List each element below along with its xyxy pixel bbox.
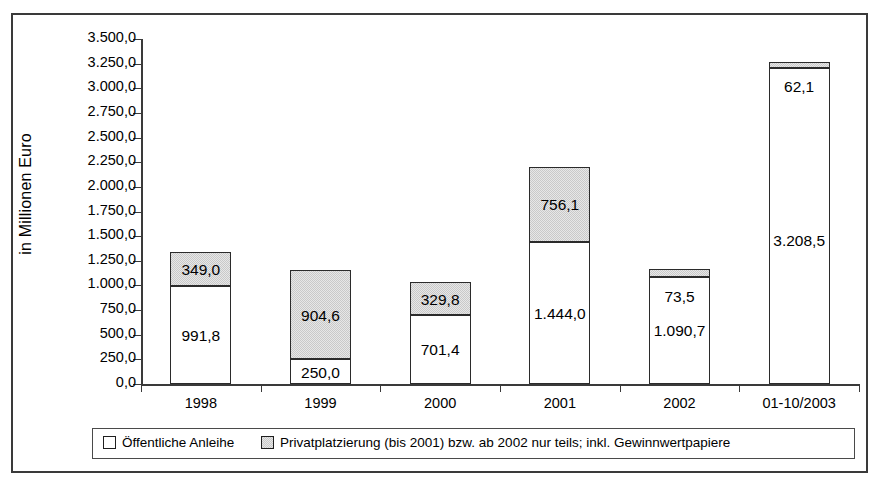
bar-2002[interactable]: 1.090,773,5 — [649, 269, 710, 384]
bar-2000[interactable]: 701,4329,8 — [410, 282, 471, 384]
y-axis-tick-label: 3.000,0 — [88, 78, 136, 94]
bar-segment-privatplatzierung[interactable] — [769, 62, 830, 68]
y-axis-tick-label: 3.500,0 — [88, 29, 136, 45]
y-axis-tick-label: 750,0 — [100, 300, 136, 316]
bar-segment-privatplatzierung[interactable] — [649, 269, 710, 276]
y-axis-tick-label: 2.750,0 — [88, 103, 136, 119]
chart-legend: Öffentliche Anleihe Privatplatzierung (b… — [92, 428, 855, 459]
bar-value-label-privatplatzierung: 349,0 — [170, 261, 231, 279]
plot-area: 0,0250,0500,0750,01.000,01.250,01.500,01… — [141, 39, 868, 385]
y-axis-tick-label: 0,0 — [116, 374, 136, 390]
bar-value-label-privatplatzierung: 73,5 — [649, 288, 710, 306]
x-axis-tick-mark — [620, 384, 621, 392]
x-axis-category-label: 2002 — [620, 395, 740, 411]
x-axis-tick-mark — [380, 384, 381, 392]
bar-01-10/2003[interactable]: 3.208,562,1 — [769, 62, 830, 384]
bar-value-label-oeffentliche-anleihe: 250,0 — [290, 364, 351, 382]
bar-segment-oeffentliche-anleihe[interactable] — [769, 68, 830, 384]
x-axis-category-label: 1999 — [261, 395, 381, 411]
y-axis-tick-label: 2.250,0 — [88, 152, 136, 168]
bar-value-label-privatplatzierung: 329,8 — [410, 291, 471, 309]
bar-value-label-oeffentliche-anleihe: 1.444,0 — [529, 305, 590, 323]
bar-value-label-privatplatzierung: 904,6 — [290, 307, 351, 325]
legend-label-0: Öffentliche Anleihe — [122, 435, 234, 450]
y-axis-tick-label: 2.500,0 — [88, 128, 136, 144]
x-axis-tick-mark — [739, 384, 740, 392]
bar-1998[interactable]: 991,8349,0 — [170, 252, 231, 384]
gray-square-swatch-icon — [261, 436, 274, 449]
x-axis-tick-mark — [500, 384, 501, 392]
bar-value-label-oeffentliche-anleihe: 3.208,5 — [769, 232, 830, 250]
white-square-swatch-icon — [103, 436, 116, 449]
legend-label-1: Privatplatzierung (bis 2001) bzw. ab 200… — [280, 435, 730, 450]
y-axis-tick-label: 1.500,0 — [88, 226, 136, 242]
bar-2001[interactable]: 1.444,0756,1 — [529, 167, 590, 384]
bar-value-label-oeffentliche-anleihe: 991,8 — [170, 327, 231, 345]
x-axis-category-label: 2000 — [380, 395, 500, 411]
bar-value-label-oeffentliche-anleihe: 1.090,7 — [649, 322, 710, 340]
y-axis-title: in Millionen Euro — [17, 94, 35, 294]
x-axis-category-label: 1998 — [141, 395, 261, 411]
chart-figure: in Millionen Euro 0,0250,0500,0750,01.00… — [0, 0, 884, 487]
x-axis-tick-mark — [261, 384, 262, 392]
bar-1999[interactable]: 250,0904,6 — [290, 270, 351, 384]
y-axis-tick-label: 2.000,0 — [88, 177, 136, 193]
y-axis-line — [141, 39, 143, 386]
x-axis-tick-mark — [141, 384, 142, 392]
y-axis-tick-label: 1.750,0 — [88, 202, 136, 218]
bar-value-label-oeffentliche-anleihe: 701,4 — [410, 341, 471, 359]
y-axis-tick-label: 500,0 — [100, 325, 136, 341]
x-axis-category-label: 01-10/2003 — [739, 395, 859, 411]
legend-item-privatplatzierung: Privatplatzierung (bis 2001) bzw. ab 200… — [261, 435, 730, 450]
legend-item-oeffentliche-anleihe: Öffentliche Anleihe — [103, 435, 234, 450]
y-axis-tick-label: 1.000,0 — [88, 275, 136, 291]
x-axis-category-label: 2001 — [500, 395, 620, 411]
x-axis-tick-mark — [859, 384, 860, 392]
y-axis-tick-label: 3.250,0 — [88, 54, 136, 70]
y-axis-tick-label: 250,0 — [100, 349, 136, 365]
bar-value-label-privatplatzierung: 756,1 — [529, 196, 590, 214]
bar-value-label-privatplatzierung: 62,1 — [769, 78, 830, 96]
y-axis-tick-label: 1.250,0 — [88, 251, 136, 267]
